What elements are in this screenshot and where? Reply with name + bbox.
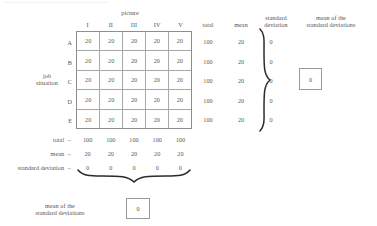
row-std-E: 0 bbox=[256, 116, 286, 123]
cell-A-III: 20 bbox=[123, 32, 146, 50]
table-row: 20 20 20 20 20 bbox=[77, 32, 191, 50]
cell-A-II: 20 bbox=[100, 32, 123, 50]
row-header-C: C bbox=[58, 78, 72, 85]
cell-D-IV: 20 bbox=[145, 90, 168, 110]
col-mean-IV: 20 bbox=[146, 150, 169, 157]
cell-E-III: 20 bbox=[123, 110, 146, 128]
col-mean-III: 20 bbox=[122, 150, 145, 157]
cell-A-I: 20 bbox=[77, 32, 100, 50]
row-total-C: 100 bbox=[192, 77, 224, 84]
column-group-header-picture: picture bbox=[104, 9, 156, 16]
cell-C-II: 20 bbox=[100, 70, 123, 90]
data-matrix-table: 20 20 20 20 20 20 20 20 20 20 20 20 20 2… bbox=[77, 32, 191, 128]
cell-A-V: 20 bbox=[168, 32, 191, 50]
row-total-D: 100 bbox=[192, 97, 224, 104]
cell-E-I: 20 bbox=[77, 110, 100, 128]
margin-header-mean: mean bbox=[226, 21, 256, 28]
col-mean-II: 20 bbox=[99, 150, 122, 157]
cell-A-IV: 20 bbox=[145, 32, 168, 50]
row-std-B: 0 bbox=[256, 58, 286, 65]
col-total-II: 100 bbox=[99, 136, 122, 143]
data-matrix: 20 20 20 20 20 20 20 20 20 20 20 20 20 2… bbox=[76, 31, 192, 129]
col-std-III: 0 bbox=[122, 164, 145, 171]
row-std-C: 0 bbox=[256, 77, 286, 84]
cell-D-V: 20 bbox=[168, 90, 191, 110]
cell-B-IV: 20 bbox=[145, 50, 168, 70]
column-header-3: III bbox=[122, 21, 145, 28]
col-mean-V: 20 bbox=[169, 150, 192, 157]
col-std-II: 0 bbox=[99, 164, 122, 171]
cell-D-I: 20 bbox=[77, 90, 100, 110]
bottom-label-std: standard deviation → bbox=[0, 164, 72, 171]
column-header-1: I bbox=[76, 21, 99, 28]
col-std-I: 0 bbox=[76, 164, 99, 171]
row-header-A: A bbox=[58, 39, 72, 46]
row-total-A: 100 bbox=[192, 38, 224, 45]
row-total-E: 100 bbox=[192, 116, 224, 123]
margin-header-msd-line2: standard deviations bbox=[291, 21, 371, 28]
table-row: 20 20 20 20 20 bbox=[77, 110, 191, 128]
mean-of-col-std-value: 0 bbox=[136, 205, 139, 212]
row-std-A: 0 bbox=[256, 38, 286, 45]
mean-of-row-std-value: 0 bbox=[309, 76, 312, 83]
cell-B-III: 20 bbox=[123, 50, 146, 70]
cell-B-II: 20 bbox=[100, 50, 123, 70]
cell-D-III: 20 bbox=[123, 90, 146, 110]
row-mean-A: 20 bbox=[226, 38, 256, 45]
col-total-V: 100 bbox=[169, 136, 192, 143]
column-header-2: II bbox=[99, 21, 122, 28]
row-mean-B: 20 bbox=[226, 58, 256, 65]
row-mean-E: 20 bbox=[226, 116, 256, 123]
top-rule bbox=[4, 2, 108, 3]
row-header-D: D bbox=[58, 98, 72, 105]
col-std-V: 0 bbox=[169, 164, 192, 171]
mean-of-col-std-box: 0 bbox=[126, 198, 150, 219]
diagram-canvas: picture I II III IV V total mean standar… bbox=[0, 0, 377, 226]
cell-C-IV: 20 bbox=[145, 70, 168, 90]
col-std-IV: 0 bbox=[146, 164, 169, 171]
row-header-B: B bbox=[58, 59, 72, 66]
row-header-E: E bbox=[58, 117, 72, 124]
cell-B-I: 20 bbox=[77, 50, 100, 70]
bottom-msd-label-line2: standard deviations bbox=[22, 209, 98, 216]
mean-of-row-std-box: 0 bbox=[299, 68, 322, 90]
cell-D-II: 20 bbox=[100, 90, 123, 110]
bottom-label-total: total → bbox=[0, 136, 72, 143]
margin-header-total: total bbox=[192, 21, 224, 28]
col-total-IV: 100 bbox=[146, 136, 169, 143]
row-total-B: 100 bbox=[192, 58, 224, 65]
col-total-I: 100 bbox=[76, 136, 99, 143]
row-mean-C: 20 bbox=[226, 77, 256, 84]
cell-E-IV: 20 bbox=[145, 110, 168, 128]
cell-C-V: 20 bbox=[168, 70, 191, 90]
table-row: 20 20 20 20 20 bbox=[77, 70, 191, 90]
cell-B-V: 20 bbox=[168, 50, 191, 70]
cell-E-II: 20 bbox=[100, 110, 123, 128]
table-row: 20 20 20 20 20 bbox=[77, 50, 191, 70]
col-total-III: 100 bbox=[122, 136, 145, 143]
row-std-D: 0 bbox=[256, 97, 286, 104]
col-mean-I: 20 bbox=[76, 150, 99, 157]
column-header-4: IV bbox=[146, 21, 169, 28]
cell-E-V: 20 bbox=[168, 110, 191, 128]
column-header-5: V bbox=[169, 21, 192, 28]
table-row: 20 20 20 20 20 bbox=[77, 90, 191, 110]
cell-C-I: 20 bbox=[77, 70, 100, 90]
bottom-label-mean: mean → bbox=[0, 150, 72, 157]
row-mean-D: 20 bbox=[226, 97, 256, 104]
margin-header-std-line2: deviation bbox=[256, 21, 296, 28]
cell-C-III: 20 bbox=[123, 70, 146, 90]
